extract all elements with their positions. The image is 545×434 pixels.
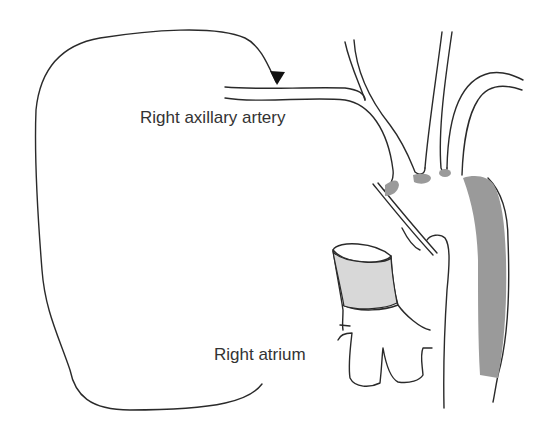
- bypass-circuit-diagram: [0, 0, 545, 434]
- cannula-outer: [373, 184, 433, 255]
- axillary-artery-upper: [225, 87, 365, 100]
- flow-arrow-icon: [270, 71, 285, 85]
- clamp-mark-3: [439, 169, 451, 177]
- aorta-shading: [463, 176, 506, 378]
- label-right-atrium: Right atrium: [214, 345, 306, 365]
- atrium-shading: [333, 252, 397, 309]
- ascending-aorta: [427, 235, 449, 408]
- atrium-lower: [338, 305, 432, 386]
- label-right-axillary-artery: Right axillary artery: [140, 108, 286, 128]
- aortic-arch: [447, 73, 523, 175]
- clamp-mark-2: [413, 174, 431, 184]
- clamp-mark-1: [385, 180, 399, 196]
